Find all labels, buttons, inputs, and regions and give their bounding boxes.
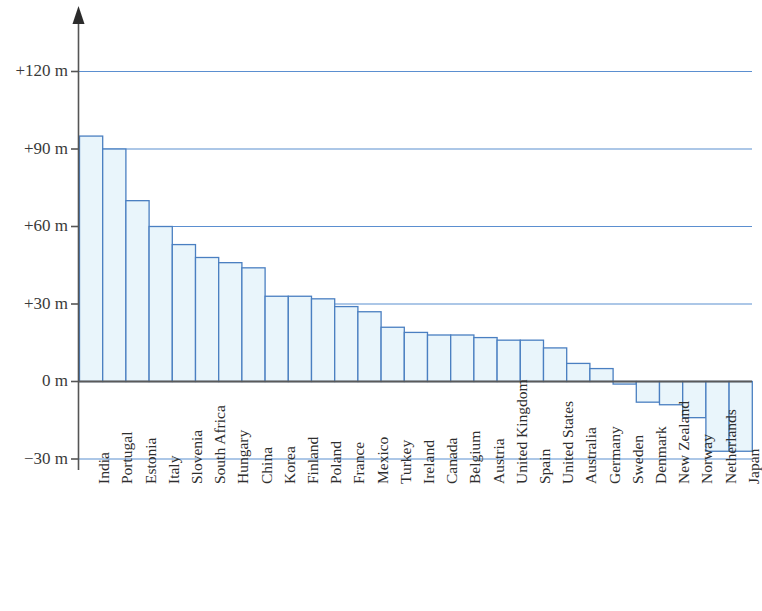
x-tick-label: Mexico [375, 437, 391, 484]
x-tick-label: Finland [305, 437, 321, 484]
x-tick-label: Australia [583, 427, 599, 484]
x-tick-label: Spain [537, 449, 553, 484]
x-tick-label: Hungary [235, 430, 251, 484]
bar[interactable] [428, 335, 451, 382]
bar[interactable] [544, 348, 567, 382]
x-tick-label: India [96, 452, 112, 484]
x-tick-label: Portugal [119, 431, 135, 484]
bar[interactable] [451, 335, 474, 382]
x-tick-label: Denmark [653, 426, 669, 484]
x-tick-label: South Africa [212, 405, 228, 484]
bar[interactable] [242, 268, 265, 382]
bar[interactable] [80, 136, 103, 381]
bar[interactable] [636, 382, 659, 403]
bar[interactable] [358, 312, 381, 382]
y-tick-label: +60 m [0, 216, 68, 236]
bar[interactable] [149, 227, 172, 382]
bar[interactable] [265, 296, 288, 381]
x-tick-label: Italy [166, 456, 182, 484]
x-tick-label: United States [560, 401, 576, 484]
bar[interactable] [126, 201, 149, 382]
bar[interactable] [103, 149, 126, 382]
bar[interactable] [335, 307, 358, 382]
y-tick-label: +120 m [0, 61, 68, 81]
bar[interactable] [172, 245, 195, 382]
bar[interactable] [381, 327, 404, 381]
x-tick-label: Turkey [398, 440, 414, 484]
bar[interactable] [474, 338, 497, 382]
y-tick-label: −30 m [0, 449, 68, 469]
x-tick-label: Sweden [630, 435, 646, 484]
x-tick-label: France [351, 442, 367, 484]
bar[interactable] [288, 296, 311, 381]
bar[interactable] [404, 332, 427, 381]
x-tick-label: Netherlands [723, 409, 739, 484]
x-tick-label: Korea [282, 446, 298, 484]
x-tick-label: Japan [746, 449, 762, 484]
bars-group [80, 136, 753, 451]
bar[interactable] [497, 340, 520, 381]
x-tick-label: Estonia [143, 438, 159, 485]
x-tick-label: Poland [328, 441, 344, 484]
x-tick-label: Germany [607, 426, 623, 484]
y-tick-label: +90 m [0, 139, 68, 159]
x-tick-label: New Zealand [676, 401, 692, 484]
bar[interactable] [312, 299, 335, 382]
x-tick-label: Slovenia [189, 430, 205, 484]
y-tick-label: +30 m [0, 294, 68, 314]
bar[interactable] [196, 258, 219, 382]
bar[interactable] [219, 263, 242, 382]
bar[interactable] [590, 369, 613, 382]
x-tick-label: Ireland [421, 440, 437, 484]
x-tick-label: Austria [491, 438, 507, 484]
y-tick-label: 0 m [0, 371, 68, 391]
x-tick-label: Belgium [467, 431, 483, 484]
bar[interactable] [567, 363, 590, 381]
x-tick-label: United Kingdom [514, 379, 530, 484]
bar[interactable] [520, 340, 543, 381]
x-tick-label: China [259, 447, 275, 484]
axis-arrow-icon [73, 6, 85, 24]
x-tick-label: Norway [699, 434, 715, 484]
x-tick-label: Canada [444, 438, 460, 484]
